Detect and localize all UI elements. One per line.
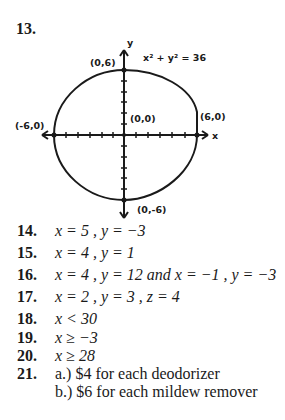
point-6-0 (195, 133, 200, 138)
label-6-0: (6,0) (200, 111, 226, 122)
point-neg6-0 (52, 133, 57, 138)
label-origin: (0,0) (130, 113, 156, 124)
y-axis-label: y (127, 37, 134, 48)
label-neg6-0: (-6,0) (15, 120, 44, 131)
label-0-6: (0,6) (90, 57, 116, 68)
equation-label: x² + y² = 36 (143, 52, 206, 63)
point-0-neg6 (122, 198, 127, 203)
point-0-6 (122, 68, 127, 73)
point-origin (122, 133, 126, 137)
label-0-neg6: (0,-6) (137, 204, 166, 215)
x-axis-label: x (212, 130, 218, 141)
circle-graph: y x x² + y² = 36 (0,6) (-6,0) (0,0) (6,0… (0, 0, 285, 225)
